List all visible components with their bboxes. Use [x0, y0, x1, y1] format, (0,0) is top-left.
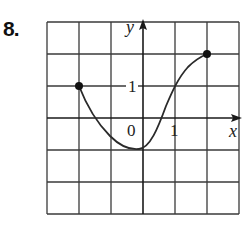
y-axis-label: y [124, 17, 134, 37]
x-tick-label-1: 1 [170, 121, 179, 140]
right-endpoint-dot [203, 50, 211, 58]
origin-label: 0 [127, 121, 136, 140]
left-endpoint-dot [75, 82, 83, 90]
y-tick-label-1: 1 [128, 77, 137, 96]
function-graph: y x 0 1 1 [0, 0, 244, 234]
x-axis-label: x [228, 121, 237, 141]
